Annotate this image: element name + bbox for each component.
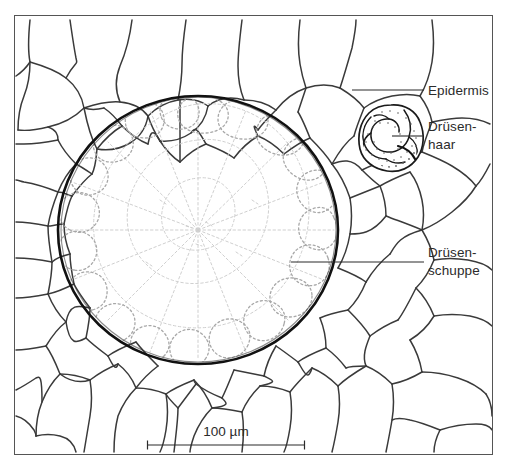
scale-bar-label: 100 µm (147, 424, 305, 439)
label-druesenschuppe: Drüsen- schuppe (428, 244, 480, 279)
figure-panel: Epidermis Drüsen- haar Drüsen- schuppe 1… (0, 0, 506, 470)
label-epidermis: Epidermis (428, 82, 489, 100)
gland-hair (359, 105, 423, 172)
illustration-canvas (0, 0, 506, 470)
label-druesenhaar: Drüsen- haar (428, 118, 477, 153)
